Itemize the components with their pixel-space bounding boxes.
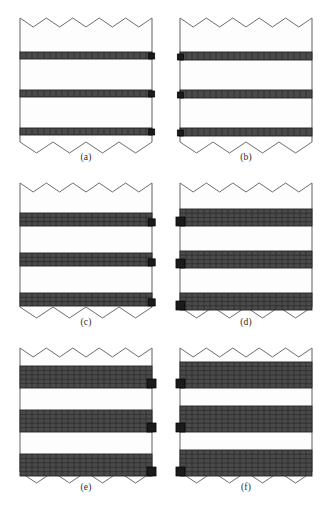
band-3: [176, 293, 312, 310]
panel-a-diagram: [12, 4, 160, 154]
band-1: [177, 52, 312, 60]
band-end-marker-right: [149, 129, 155, 135]
band-end-marker-right: [149, 53, 155, 59]
band-1: [20, 213, 155, 226]
panel-c-caption: (c): [12, 317, 160, 327]
panel-f-caption: (f): [172, 482, 320, 492]
panel-a-caption: (a): [12, 152, 160, 162]
panel-e: (e): [12, 334, 160, 500]
band-end-marker-right: [147, 423, 156, 432]
panel-c-diagram: [12, 169, 160, 319]
panel-b-caption: (b): [172, 152, 320, 162]
panel-d-caption: (d): [172, 317, 320, 327]
panel-f-diagram: [172, 334, 320, 484]
band-1: [176, 362, 312, 388]
band-3: [20, 128, 155, 135]
band-2: [176, 406, 312, 432]
band-end-marker-right: [149, 91, 155, 97]
specimen-body: [20, 18, 152, 142]
band-3: [20, 454, 156, 476]
panel-f: (f): [172, 334, 320, 500]
band-end-marker-left: [176, 467, 185, 476]
panel-c: (c): [12, 169, 160, 335]
band-end-marker-left: [176, 423, 185, 432]
band-end-marker-left: [177, 92, 183, 98]
band-end-marker-right: [147, 379, 156, 388]
band-2: [177, 90, 312, 98]
band-end-marker-right: [147, 467, 156, 476]
band-end-marker-right: [148, 259, 155, 266]
specimen-body: [180, 18, 312, 142]
panel-b: (b): [172, 4, 320, 170]
panel-e-diagram: [12, 334, 160, 484]
band-2: [176, 251, 312, 268]
band-end-marker-left: [176, 379, 185, 388]
band-end-marker-left: [177, 54, 183, 60]
band-1: [176, 209, 312, 226]
band-end-marker-left: [176, 217, 185, 226]
band-3: [177, 128, 312, 136]
band-end-marker-right: [148, 219, 155, 226]
panel-a: (a): [12, 4, 160, 170]
band-2: [20, 253, 155, 266]
band-end-marker-left: [176, 301, 185, 310]
panel-b-diagram: [172, 4, 320, 154]
band-end-marker-left: [176, 259, 185, 268]
band-3: [176, 450, 312, 476]
panel-d: (d): [172, 169, 320, 335]
panel-e-caption: (e): [12, 482, 160, 492]
specimen-body: [20, 183, 152, 307]
panel-d-diagram: [172, 169, 320, 319]
band-end-marker-left: [177, 130, 183, 136]
figure-container: (a)(b)(c)(d)(e)(f): [0, 0, 321, 506]
band-2: [20, 90, 155, 97]
band-2: [20, 410, 156, 432]
band-1: [20, 366, 156, 388]
band-1: [20, 52, 155, 59]
band-end-marker-right: [148, 299, 155, 306]
band-3: [20, 293, 155, 306]
specimen-body: [180, 183, 312, 307]
